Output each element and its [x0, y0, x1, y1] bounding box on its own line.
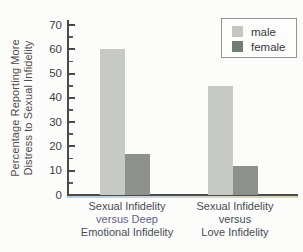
legend-label-male: male: [251, 26, 276, 38]
y-tick-label-20: 20: [28, 140, 62, 153]
y-tick-mark-60: [69, 48, 75, 50]
legend-item-female: female: [232, 40, 296, 53]
y-minor-tick-mark-65: [69, 36, 73, 38]
bar-male-group2: [208, 86, 233, 195]
y-tick-mark-10: [69, 170, 75, 172]
y-tick-mark-70: [69, 24, 75, 26]
y-tick-label-60: 60: [28, 43, 62, 56]
category-2-line-2: versus: [172, 213, 298, 226]
y-axis-title-line2: Distress to Sexual Infidelity: [21, 39, 34, 177]
y-tick-mark-20: [69, 145, 75, 147]
y-tick-mark-50: [69, 73, 75, 75]
y-minor-tick-mark-55: [69, 61, 73, 63]
y-minor-tick-mark-35: [69, 109, 73, 111]
female-color-swatch: [232, 41, 243, 52]
legend: male female: [221, 18, 297, 58]
y-tick-label-50: 50: [28, 67, 62, 80]
category-2-line-3: Love Infidelity: [172, 226, 298, 239]
y-tick-label-30: 30: [28, 116, 62, 129]
category-2-line-1: Sexual Infidelity: [172, 200, 298, 213]
y-tick-mark-30: [69, 121, 75, 123]
bar-male-group1: [100, 49, 125, 195]
bar-female-group1: [125, 154, 150, 195]
y-axis-title: Percentage Reporting More Distress to Se…: [9, 39, 34, 177]
y-tick-label-10: 10: [28, 164, 62, 177]
legend-label-female: female: [251, 41, 286, 53]
category-label-sexual-vs-love: Sexual Infidelity versus Love Infidelity: [172, 200, 298, 239]
legend-item-male: male: [232, 25, 296, 38]
y-minor-tick-mark-25: [69, 133, 73, 135]
y-tick-label-40: 40: [28, 91, 62, 104]
x-axis-scan-tint: [67, 196, 298, 198]
bar-female-group2: [233, 166, 258, 195]
y-minor-tick-mark-45: [69, 85, 73, 87]
y-tick-mark-0: [69, 194, 75, 196]
y-tick-mark-40: [69, 97, 75, 99]
bar-chart-figure: Percentage Reporting More Distress to Se…: [0, 0, 303, 252]
y-minor-tick-mark-5: [69, 182, 73, 184]
y-minor-tick-mark-15: [69, 158, 73, 160]
male-color-swatch: [232, 26, 243, 37]
y-axis-title-line1: Percentage Reporting More: [9, 39, 22, 177]
y-tick-label-70: 70: [28, 19, 62, 32]
